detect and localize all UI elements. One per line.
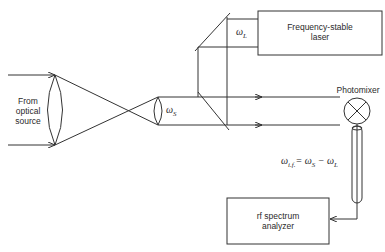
signal-frequency-label: ωS bbox=[166, 104, 177, 118]
analyzer-label-line: rf spectrum bbox=[227, 211, 329, 221]
photomixer-label: Photomixer bbox=[330, 85, 385, 95]
laser-label-line: laser bbox=[258, 32, 382, 42]
laser-label-line: Frequency-stable bbox=[258, 22, 382, 32]
source-label: From optical source bbox=[6, 96, 50, 126]
analyzer-label-line: analyzer bbox=[227, 221, 329, 231]
collimating-lens bbox=[154, 97, 162, 125]
analyzer-box-label: rf spectrum analyzer bbox=[227, 211, 329, 231]
laser-frequency-label: ωL bbox=[236, 26, 247, 40]
laser-box-label: Frequency-stable laser bbox=[258, 22, 382, 42]
mirror bbox=[195, 13, 230, 51]
beam-splitter bbox=[198, 92, 229, 130]
source-label-line: From bbox=[6, 96, 50, 106]
source-label-line: optical bbox=[6, 106, 50, 116]
source-label-line: source bbox=[6, 116, 50, 126]
if-equation: ωi.f.= ωS − ωL bbox=[281, 155, 338, 169]
